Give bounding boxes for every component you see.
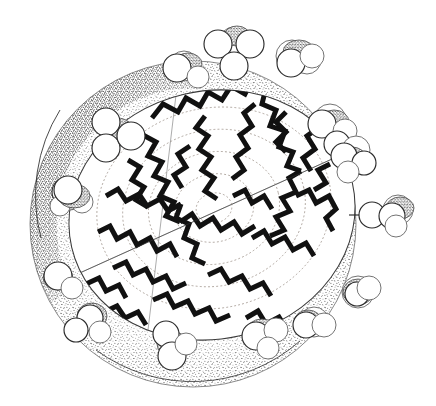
ligand-sphere (220, 52, 248, 80)
ligand-sphere (92, 134, 120, 162)
ligand-sphere (312, 313, 336, 337)
ligand-sphere (64, 318, 88, 342)
ligand-sphere (117, 122, 145, 150)
ligand-sphere (89, 321, 111, 343)
ligand-sphere (61, 277, 83, 299)
figure-root: Stippled spherical nanoparticle with coi… (0, 0, 436, 406)
ligand-sphere (92, 108, 120, 136)
ligand-sphere (337, 161, 359, 183)
nanoparticle-illustration: Stippled spherical nanoparticle with coi… (0, 0, 436, 406)
ligand-sphere (385, 215, 407, 237)
ligand-sphere (175, 333, 197, 355)
ligand-sphere (300, 44, 324, 68)
ligand-sphere (357, 276, 381, 300)
ligand-sphere (187, 66, 209, 88)
ligand-sphere (257, 337, 279, 359)
ligand-sphere (54, 176, 82, 204)
